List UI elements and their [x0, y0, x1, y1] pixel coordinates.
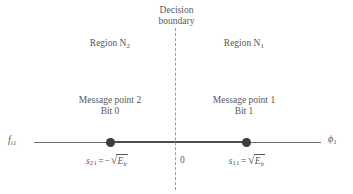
signal-space-diagram: Decision boundary Region N2 Region N1 Me…	[0, 0, 353, 194]
coordinate-value-s11-radicand-subscript: b	[260, 159, 264, 167]
coordinate-value-s21-radicand: Eb	[116, 154, 128, 168]
region-label-n1-prefix: Region N	[224, 38, 261, 48]
coordinate-value-s21: s21=−√Eb	[62, 154, 152, 168]
message-point-1-title: Message point 1	[186, 95, 302, 106]
coordinate-value-s11-subscript: 11	[233, 159, 240, 167]
coordinate-value-s11: s11=√Eb	[202, 154, 292, 168]
message-point-1-bit: Bit 1	[186, 106, 302, 117]
message-point-2-bit: Bit 0	[52, 106, 168, 117]
message-point-2-title: Message point 2	[52, 95, 168, 106]
region-label-n2-subscript: 2	[126, 42, 130, 50]
constellation-point-s11	[242, 138, 251, 147]
region-label-n1-subscript: 1	[260, 42, 264, 50]
axis-label-fi1-subscript: i1	[11, 139, 17, 147]
axis-line-right-segment	[247, 142, 321, 143]
coordinate-value-s11-equals: =	[240, 156, 247, 166]
origin-label: 0	[180, 155, 185, 166]
region-label-n2: Region N2	[52, 38, 168, 50]
region-label-n2-prefix: Region N	[90, 38, 127, 48]
decision-boundary-line	[175, 28, 176, 190]
axis-line-center-segment	[110, 141, 249, 143]
axis-label-phi1-subscript: 1	[333, 138, 337, 146]
message-point-2-caption: Message point 2 Bit 0	[52, 95, 168, 117]
message-point-1-caption: Message point 1 Bit 1	[186, 95, 302, 117]
coordinate-value-s21-radicand-subscript: b	[123, 159, 127, 167]
axis-line-left-segment	[34, 142, 112, 143]
decision-boundary-caption: Decision boundary	[0, 5, 353, 27]
coordinate-value-s21-equals: =	[97, 156, 104, 166]
coordinate-value-s11-radicand: Eb	[254, 154, 266, 168]
constellation-point-s21	[106, 138, 115, 147]
axis-label-phi1: ϕ1	[328, 133, 337, 146]
coordinate-value-s11-radical: √Eb	[247, 154, 265, 168]
region-label-n1: Region N1	[186, 38, 302, 50]
decision-boundary-caption-line1: Decision	[0, 5, 353, 16]
axis-label-fi1: fi1	[8, 134, 17, 147]
coordinate-value-s21-radical: √Eb	[110, 154, 128, 168]
decision-boundary-caption-line2: boundary	[0, 16, 353, 27]
